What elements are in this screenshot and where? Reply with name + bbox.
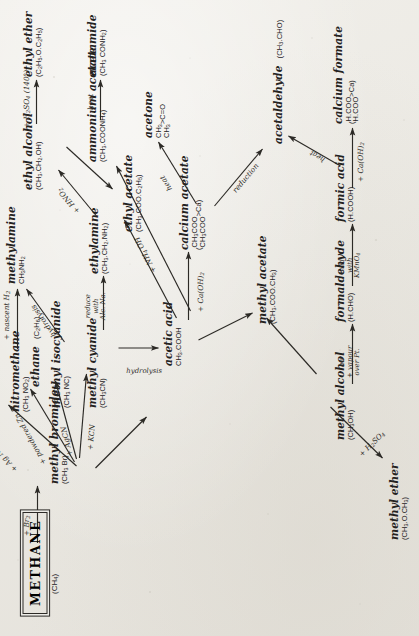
node-formic-acid[interactable]: formic acid (H.COOH)	[334, 154, 353, 222]
arrow-calcium-acetate-acetaldehyde	[214, 149, 262, 206]
label-reduce-alc-na: reducewithAlc. Na.	[84, 292, 107, 320]
node-methyl-isocyanide-formula: (CH3 NC)	[62, 300, 71, 408]
node-methyl-cyanide-label: methyl cyanide	[86, 318, 97, 408]
node-calcium-acetate-formula: (CH3COOCH3COO>Ca)	[190, 155, 207, 250]
node-acetone-label: acetone	[142, 91, 153, 138]
node-ethyl-alcohol-formula: (CH3.CH2.OH)	[34, 113, 43, 190]
node-methyl-ether-label: methyl ether	[388, 463, 399, 540]
node-calcium-formate[interactable]: calcium formate (H.COOH.COO>Ca)	[332, 26, 359, 124]
node-acetic-acid-label: acetic acid	[162, 302, 173, 366]
node-ethyl-acetate-formula: (CH3.COO.C2H5)	[134, 155, 143, 232]
node-ethyl-acetate[interactable]: ethyl acetate (CH3.COO.C2H5)	[122, 155, 142, 232]
node-methyl-ether[interactable]: methyl ether (CH3.O.CH3)	[388, 463, 408, 540]
node-methylamine-label: methylamine	[5, 206, 16, 284]
node-ethyl-ether[interactable]: ethyl ether (C2H5.O.C2H5)	[22, 12, 42, 77]
node-ethane[interactable]: ethane (C2H6)	[25, 316, 42, 387]
node-acetaldehyde[interactable]: acetaldehyde (CH3.CHO)	[268, 20, 285, 144]
node-calcium-formate-formula: (H.COOH.COO>Ca)	[344, 26, 359, 124]
label-oxid-kmno4: oxid.withKMnO4	[338, 253, 361, 278]
label-kcn: + KCN	[86, 424, 96, 450]
node-calcium-acetate[interactable]: calcium acetate (CH3COOCH3COO>Ca)	[178, 155, 207, 250]
node-acetone-formula: CH3CH3>C=O	[154, 91, 171, 138]
node-methyl-isocyanide-label: methyl isocyanide	[50, 300, 61, 408]
label-hydrolysis-cyanide: hydrolysis	[126, 368, 162, 376]
node-ethyl-acetate-label: ethyl acetate	[122, 155, 133, 232]
label-air-vapour-pt: air+ vapourover Pt.	[338, 346, 361, 378]
node-methyl-acetate-formula: (CH3.COO.CH3)	[268, 236, 277, 324]
node-methyl-acetate-label: methyl acetate	[256, 236, 267, 324]
arrow-acetic-methyl-acetate	[198, 313, 252, 340]
node-acetic-acid-formula: CH3.COOH	[174, 302, 183, 366]
node-acetamide[interactable]: acetamide (CH3 CONH2)	[86, 14, 106, 76]
node-nitromethane-label: nitromethane	[9, 330, 20, 412]
node-acetone[interactable]: acetone CH3CH3>C=O	[142, 91, 171, 138]
node-methyl-ether-formula: (CH3.O.CH3)	[400, 463, 409, 540]
diagram-canvas: METHANE (CH4) methyl bromide (CH3 Br) ni…	[0, 0, 419, 636]
node-methyl-isocyanide[interactable]: methyl isocyanide (CH3 NC)	[50, 300, 70, 408]
label-h2so4-140: + H2SO4 (140°)	[22, 70, 31, 128]
node-methyl-cyanide[interactable]: methyl cyanide (CH3CN)	[86, 318, 106, 408]
label-caoh2-acetate: + Ca(OH)2	[196, 272, 205, 312]
node-methyl-cyanide-formula: (CH3CN)	[98, 318, 107, 408]
node-methylamine-formula: CH3NH2	[17, 206, 26, 284]
node-acetaldehyde-label: acetaldehyde	[271, 66, 283, 145]
node-ethylamine[interactable]: ethylamine (CH3.CH2.NH2)	[88, 208, 108, 274]
node-acetic-acid[interactable]: acetic acid CH3.COOH	[162, 302, 182, 366]
node-methylamine[interactable]: methylamine CH3NH2	[5, 206, 25, 284]
arrow-mbr-methyl-alcohol	[95, 417, 146, 468]
node-methane-formula: (CH4)	[49, 574, 58, 594]
node-ethyl-ether-label: ethyl ether	[22, 12, 33, 77]
label-nascent-h2: + nascent H2	[2, 291, 11, 340]
label-heat-acetamide: heat	[86, 94, 94, 110]
node-calcium-acetate-label: calcium acetate	[178, 155, 189, 250]
node-methyl-acetate[interactable]: methyl acetate (CH3.COO.CH3)	[256, 236, 276, 324]
node-ethyl-ether-formula: (C2H5.O.C2H5)	[34, 12, 43, 77]
label-br2: + Br2	[22, 515, 31, 536]
node-acetaldehyde-formula: (CH3.CHO)	[274, 20, 283, 59]
arrow-methyl-alcohol-methyl-acetate	[266, 318, 316, 374]
node-acetamide-formula: (CH3 CONH2)	[98, 14, 107, 76]
node-calcium-formate-label: calcium formate	[332, 26, 343, 124]
node-ethylamine-formula: (CH3.CH2.NH2)	[100, 208, 109, 274]
node-ethylamine-label: ethylamine	[88, 208, 99, 274]
label-caoh2-formate: + Ca(OH)2	[356, 142, 365, 182]
node-ethane-label: ethane	[28, 346, 40, 387]
node-acetamide-label: acetamide	[86, 14, 97, 76]
node-formic-acid-label: formic acid	[334, 154, 345, 222]
node-formic-acid-formula: (H.COOH)	[346, 154, 354, 222]
